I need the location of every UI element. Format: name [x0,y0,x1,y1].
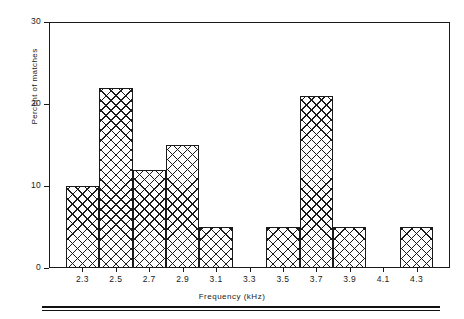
y-tick-label: 20 [31,98,41,108]
x-tick-mark [149,268,150,272]
y-tick-label: 0 [36,262,41,272]
x-tick-mark [250,268,251,272]
x-tick-label: 2.7 [143,274,156,284]
y-tick-label: 10 [31,180,41,190]
x-tick-mark [82,268,83,272]
x-tick-label: 4.1 [377,274,390,284]
x-tick-label: 3.9 [343,274,356,284]
histogram-bar [266,227,299,268]
x-tick-label: 2.5 [109,274,122,284]
histogram-bar [300,96,333,268]
x-tick-mark [417,268,418,272]
y-tick-mark [44,22,49,23]
x-axis-label: Frequency (kHz) [0,292,464,301]
x-tick-mark [216,268,217,272]
x-tick-mark [316,268,317,272]
histogram-bar [333,227,366,268]
histogram-bar [166,145,199,268]
x-tick-label: 3.3 [243,274,256,284]
x-tick-label: 2.9 [176,274,189,284]
y-tick-mark [44,186,49,187]
histogram-bar [199,227,232,268]
histogram-bar [66,186,99,268]
x-tick-mark [383,268,384,272]
histogram-figure: Percent of matches 0102030 2.32.52.72.93… [0,0,464,319]
x-tick-label: 3.5 [276,274,289,284]
x-tick-label: 3.1 [210,274,223,284]
histogram-bar [99,88,132,268]
histogram-bar [133,170,166,268]
x-tick-mark [350,268,351,272]
x-tick-mark [116,268,117,272]
footer-rule-thin [42,310,440,311]
x-tick-label: 4.3 [410,274,423,284]
x-tick-mark [183,268,184,272]
footer-rule-thick [42,306,440,308]
y-tick-label: 30 [31,16,41,26]
x-tick-label: 2.3 [76,274,89,284]
histogram-bar [400,227,433,268]
y-axis-label: Percent of matches [30,17,39,157]
x-tick-mark [283,268,284,272]
x-tick-label: 3.7 [310,274,323,284]
y-tick-mark [44,268,49,269]
y-tick-mark [44,104,49,105]
